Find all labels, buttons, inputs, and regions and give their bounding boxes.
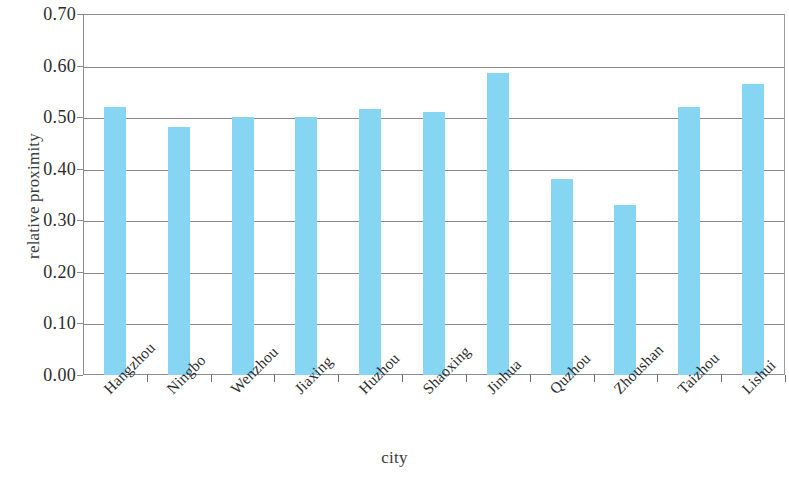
y-axis-tick-mark: [77, 66, 83, 67]
bar: [104, 107, 126, 375]
bar: [487, 73, 509, 375]
y-axis-tick-label: 0.20: [4, 261, 76, 282]
y-axis-tick-mark: [77, 14, 83, 15]
x-axis-tick-mark: [402, 375, 403, 382]
y-axis-tick-mark: [77, 220, 83, 221]
y-axis-tick-label: 0.60: [4, 55, 76, 76]
bar: [295, 117, 317, 375]
y-axis-tick-mark: [77, 117, 83, 118]
bar-slot: [594, 14, 658, 375]
bar-slot: [211, 14, 275, 375]
bar: [742, 84, 764, 375]
bar: [232, 117, 254, 375]
bar-slot: [721, 14, 785, 375]
bar: [359, 109, 381, 375]
bar-slot: [402, 14, 466, 375]
bar: [423, 112, 445, 375]
bar-slot: [274, 14, 338, 375]
bar-slot: [147, 14, 211, 375]
y-axis-tick-mark: [77, 323, 83, 324]
bar: [168, 127, 190, 375]
bar-chart: relative proximity 0.000.100.200.300.400…: [0, 0, 789, 477]
x-axis-tick-mark: [594, 375, 595, 382]
x-axis-title: city: [0, 448, 789, 468]
x-axis-tick-mark: [530, 375, 531, 382]
x-axis-tick-mark: [657, 375, 658, 382]
x-axis-tick-mark: [338, 375, 339, 382]
bars-layer: [83, 14, 785, 375]
bar: [551, 179, 573, 375]
x-axis-tick-mark: [211, 375, 212, 382]
y-axis-tick-mark: [77, 375, 83, 376]
y-axis-tick-label: 0.00: [4, 365, 76, 386]
x-axis-tick-mark: [466, 375, 467, 382]
bar: [678, 107, 700, 375]
y-axis-tick-labels: 0.000.100.200.300.400.500.600.70: [0, 0, 76, 477]
y-axis-tick-label: 0.10: [4, 313, 76, 334]
x-axis-tick-mark: [274, 375, 275, 382]
x-axis-tick-mark: [721, 375, 722, 382]
bar: [614, 205, 636, 375]
bar-slot: [530, 14, 594, 375]
y-axis-tick-mark: [77, 272, 83, 273]
x-axis-tick-mark: [147, 375, 148, 382]
y-axis-tick-label: 0.50: [4, 107, 76, 128]
y-axis-tick-label: 0.40: [4, 158, 76, 179]
y-axis-tick-label: 0.30: [4, 210, 76, 231]
y-axis-tick-mark: [77, 169, 83, 170]
bar-slot: [657, 14, 721, 375]
y-axis-tick-label: 0.70: [4, 4, 76, 25]
bar-slot: [466, 14, 530, 375]
bar-slot: [338, 14, 402, 375]
x-axis-tick-mark: [785, 375, 786, 382]
bar-slot: [83, 14, 147, 375]
